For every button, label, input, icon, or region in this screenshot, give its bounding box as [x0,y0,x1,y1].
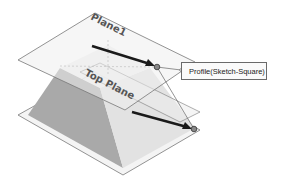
profile-callout-label: Profile(Sketch-Square) [189,67,265,76]
profile-point-icon[interactable] [191,126,197,132]
profile-point-icon[interactable] [154,64,160,70]
loft-diagram: Plane1 Top Plane [0,0,284,184]
profile-callout[interactable]: Profile(Sketch-Square) [181,62,267,80]
